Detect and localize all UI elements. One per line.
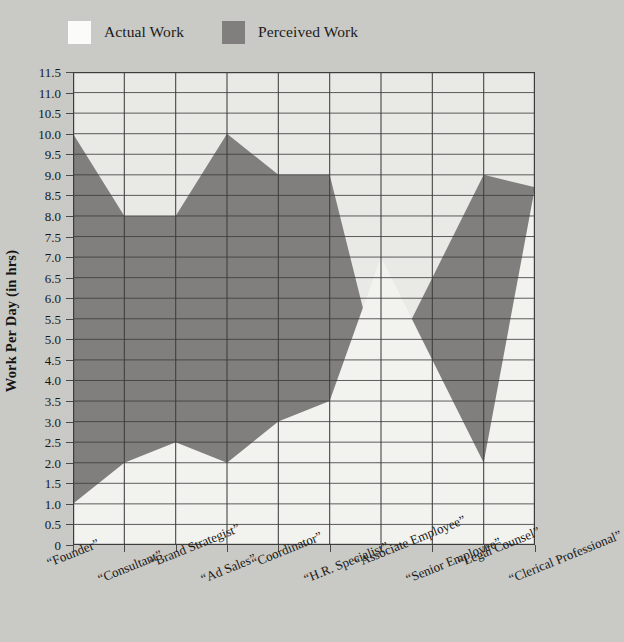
y-tick-mark [66,442,73,443]
y-tick-mark [66,93,73,94]
y-tick-mark [66,463,73,464]
y-tick-label: 1.0 [45,497,61,510]
y-axis-title: Work Per Day (in hrs) [0,0,22,642]
y-tick-label: 4.0 [45,374,61,387]
y-tick-label: 4.5 [45,353,61,366]
plot-svg [73,72,535,545]
x-tick-mark [227,545,228,552]
y-tick-mark [66,339,73,340]
y-tick-mark [66,380,73,381]
x-tick-label: “H.R. Specialist” [302,539,391,586]
y-tick-label: 6.5 [45,271,61,284]
legend-swatch-icon-actual [68,21,91,44]
x-tick-mark [176,545,177,552]
legend-label-actual: Actual Work [104,23,184,41]
y-axis-ticks: 11.511.010.510.09.59.08.58.07.57.06.56.0… [0,0,73,642]
y-tick-label: 10.5 [38,107,61,120]
x-tick-mark [535,545,536,552]
y-tick-label: 3.5 [45,395,61,408]
y-tick-label: 9.5 [45,148,61,161]
x-tick-mark [432,545,433,552]
y-tick-mark [66,237,73,238]
y-tick-mark [66,134,73,135]
y-tick-mark [66,72,73,73]
y-tick-mark [66,545,73,546]
y-tick-label: 7.0 [45,251,61,264]
y-tick-label: 3.0 [45,415,61,428]
legend-item-perceived-work[interactable]: Perceived Work [222,21,358,44]
y-tick-mark [66,319,73,320]
y-tick-label: 0.5 [45,518,61,531]
legend-label-perceived: Perceived Work [258,23,358,41]
y-tick-label: 0 [55,539,62,552]
y-tick-label: 2.5 [45,436,61,449]
y-tick-mark [66,298,73,299]
y-tick-label: 8.0 [45,209,61,222]
y-tick-label: 2.0 [45,456,61,469]
y-tick-label: 7.5 [45,230,61,243]
y-tick-mark [66,401,73,402]
plot-area [73,72,535,545]
y-tick-label: 5.0 [45,333,61,346]
x-tick-mark [381,545,382,552]
x-tick-mark [484,545,485,552]
y-tick-mark [66,278,73,279]
y-tick-label: 6.0 [45,292,61,305]
x-tick-mark [278,545,279,552]
y-tick-label: 1.5 [45,477,61,490]
y-tick-mark [66,422,73,423]
y-tick-mark [66,524,73,525]
y-tick-mark [66,113,73,114]
y-tick-label: 11.0 [39,86,61,99]
chart-legend: Actual Work Perceived Work [68,19,358,45]
y-tick-label: 10.0 [38,127,61,140]
legend-swatch-icon-perceived [222,21,245,44]
y-tick-label: 11.5 [39,66,61,79]
y-tick-mark [66,195,73,196]
y-tick-mark [66,175,73,176]
y-tick-label: 5.5 [45,312,61,325]
x-tick-mark [124,545,125,552]
y-tick-mark [66,154,73,155]
y-tick-mark [66,483,73,484]
y-tick-label: 8.5 [45,189,61,202]
y-tick-mark [66,360,73,361]
legend-item-actual-work[interactable]: Actual Work [68,21,184,44]
x-axis-ticks: “Founder”“Consultant”“Brand Strategist”“… [0,545,558,642]
y-tick-mark [66,257,73,258]
x-tick-label: “Consultant” [96,548,164,586]
y-tick-label: 9.0 [45,168,61,181]
y-tick-mark [66,216,73,217]
x-tick-label: “Ad Sales” [199,551,258,586]
y-tick-mark [66,504,73,505]
x-tick-mark [330,545,331,552]
x-tick-mark [73,545,74,552]
